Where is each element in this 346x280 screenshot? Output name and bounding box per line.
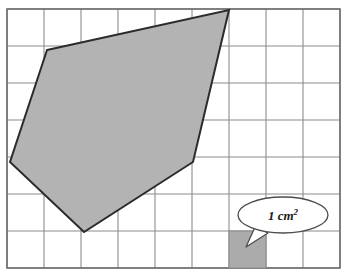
shaded-polygon: [10, 10, 229, 232]
figure-canvas: 1 cm2: [0, 0, 346, 280]
bubble-label-main: 1 cm: [268, 208, 294, 223]
callout-bubble: 1 cm2: [238, 197, 328, 247]
geometry-figure: 1 cm2: [0, 0, 346, 280]
bubble-label-exponent: 2: [293, 207, 299, 217]
